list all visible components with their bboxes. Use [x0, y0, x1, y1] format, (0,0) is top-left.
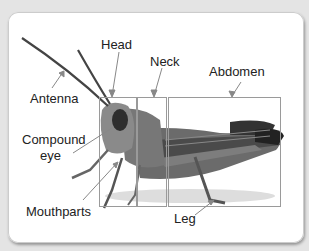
label-leg: Leg: [174, 212, 196, 225]
label-neck: Neck: [150, 55, 180, 68]
label-antenna: Antenna: [30, 92, 78, 105]
label-mouthparts: Mouthparts: [26, 205, 91, 218]
label-compound-eye-line2: eye: [40, 149, 61, 162]
label-abdomen: Abdomen: [209, 65, 265, 78]
label-head: Head: [101, 38, 132, 51]
label-compound-eye-line1: Compound: [22, 133, 86, 146]
